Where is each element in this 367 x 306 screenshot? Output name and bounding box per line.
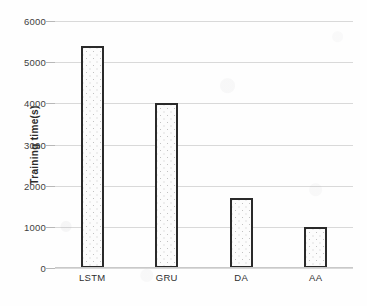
x-axis-baseline: [55, 267, 353, 268]
bar-chart: Training time(s) 01000200030004000500060…: [0, 0, 367, 306]
bar-aa: [304, 227, 327, 268]
bar-da: [230, 198, 253, 268]
x-axis-tick-label: DA: [234, 272, 248, 283]
y-axis-tick: [46, 268, 55, 269]
y-axis-tick-label: 5000: [24, 57, 46, 68]
x-axis-tick-label: AA: [309, 272, 322, 283]
y-axis-tick: [46, 145, 55, 146]
y-axis-tick: [46, 21, 55, 22]
bar-lstm: [81, 46, 104, 268]
y-axis-tick: [46, 103, 55, 104]
plot-area: [55, 21, 353, 268]
y-axis-tick-labels: 0100020003000400050006000: [0, 21, 46, 268]
bar-gru: [155, 103, 178, 268]
gridline: [55, 21, 353, 22]
y-axis-tick: [46, 186, 55, 187]
y-axis-tick: [46, 227, 55, 228]
y-axis-tick-label: 1000: [24, 221, 46, 232]
x-axis-tick-label: LSTM: [79, 272, 106, 283]
x-axis-tick-labels: LSTMGRUDAAA: [55, 272, 353, 292]
gridline: [55, 268, 353, 269]
y-axis-tick-label: 6000: [24, 16, 46, 27]
x-axis-tick-label: GRU: [156, 272, 178, 283]
y-axis-tick-label: 4000: [24, 98, 46, 109]
y-axis-tick-label: 2000: [24, 180, 46, 191]
y-axis-tick: [46, 62, 55, 63]
y-axis-tick-label: 3000: [24, 139, 46, 150]
